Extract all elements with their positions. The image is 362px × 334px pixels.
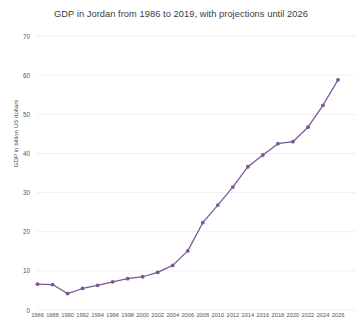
x-axis-tick-label: 2020 [287, 312, 300, 318]
data-point-marker [186, 249, 190, 253]
plot-area [0, 0, 362, 334]
data-point-marker [201, 221, 205, 225]
data-point-marker [111, 280, 115, 284]
gridlines [37, 36, 357, 310]
gdp-line-chart: GDP in Jordan from 1986 to 2019, with pr… [0, 0, 362, 334]
x-axis-tick-label: 1990 [61, 312, 74, 318]
x-axis-tick-label: 1998 [121, 312, 134, 318]
x-axis-tick-label: 2016 [257, 312, 270, 318]
x-axis-tick-label: 1986 [31, 312, 44, 318]
data-point-marker [231, 185, 235, 189]
x-axis-tick-label: 1988 [46, 312, 59, 318]
x-axis-tick-label: 2014 [242, 312, 255, 318]
data-point-marker [171, 263, 175, 267]
x-axis-tick-label: 2010 [211, 312, 224, 318]
data-point-marker [276, 142, 280, 146]
data-point-marker [291, 140, 295, 144]
x-axis-tick-label: 2002 [151, 312, 164, 318]
x-axis-tick-labels: 1986198819901992199419961998200020022004… [30, 312, 356, 324]
data-point-marker [336, 78, 340, 82]
x-axis-tick-label: 2008 [196, 312, 209, 318]
data-point-marker [246, 165, 250, 169]
data-point-marker [96, 283, 100, 287]
x-axis-tick-label: 2006 [181, 312, 194, 318]
data-point-marker [306, 125, 310, 129]
x-axis-tick-label: 2024 [317, 312, 330, 318]
data-point-marker [261, 153, 265, 157]
gdp-data-line [38, 80, 339, 294]
x-axis-tick-label: 2022 [302, 312, 315, 318]
data-point-marker [66, 292, 70, 296]
x-axis-tick-label: 1992 [76, 312, 89, 318]
data-point-marker [51, 283, 55, 287]
x-axis-tick-label: 2026 [332, 312, 345, 318]
data-point-marker [321, 103, 325, 107]
data-point-marker [141, 275, 145, 279]
data-point-marker [81, 287, 85, 291]
x-axis-tick-label: 1994 [91, 312, 104, 318]
data-point-marker [216, 203, 220, 207]
data-point-marker [156, 271, 160, 275]
x-axis-tick-label: 2018 [272, 312, 285, 318]
x-axis-tick-label: 2000 [136, 312, 149, 318]
data-point-marker [126, 277, 130, 281]
x-axis-tick-label: 2004 [166, 312, 179, 318]
x-axis-tick-label: 2012 [226, 312, 239, 318]
gdp-data-markers [36, 78, 340, 296]
x-axis-tick-label: 1996 [106, 312, 119, 318]
data-point-marker [36, 282, 40, 286]
